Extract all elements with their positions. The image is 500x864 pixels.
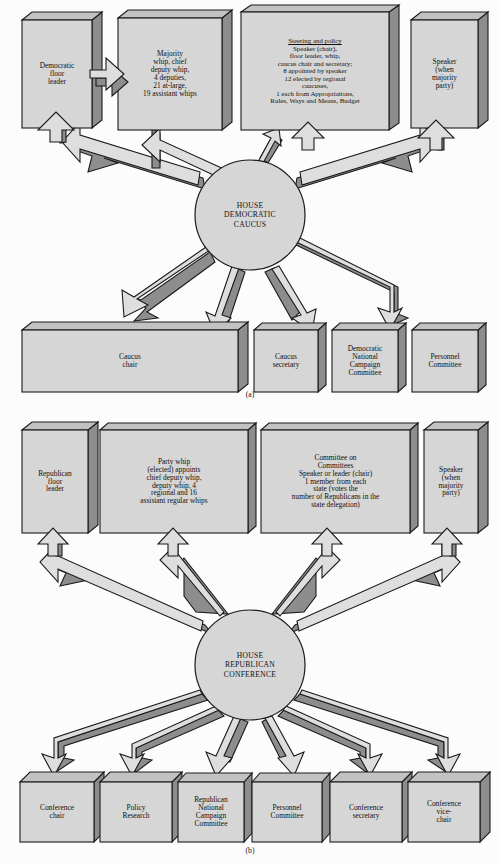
- box-republican-floor-leader: [22, 422, 98, 533]
- arrow-conference-to-rncc: [206, 716, 248, 776]
- box-steering-and-policy: [241, 5, 399, 130]
- box-personnel-committee-a: [412, 323, 486, 392]
- panel-label-a: (a): [235, 390, 265, 399]
- box-speaker-republican: [424, 422, 488, 533]
- box-democratic-national-campaign-committee: [332, 323, 406, 392]
- panel-label-b: (b): [235, 846, 265, 855]
- arrow-caucus-to-dncc: [265, 266, 316, 332]
- box-republican-national-campaign-committee: [178, 773, 252, 842]
- box-policy-research: [100, 772, 182, 842]
- box-committee-on-committees: [261, 423, 418, 533]
- label-house-democratic-caucus: HOUSE DEMOCRATIC CAUCUS: [195, 160, 305, 270]
- figure-canvas: Democratic floor leader Majority whip, c…: [0, 0, 500, 864]
- diagram-artwork: [0, 0, 500, 864]
- box-conference-vice-chair: [408, 772, 490, 842]
- box-majority-whip: [118, 10, 232, 130]
- box-conference-chair: [20, 772, 104, 842]
- box-caucus-secretary: [254, 323, 326, 392]
- box-caucus-chair: [22, 322, 248, 392]
- label-house-republican-conference: HOUSE REPUBLICAN CONFERENCE: [195, 610, 305, 720]
- box-party-whip: [100, 423, 256, 533]
- box-conference-secretary: [330, 772, 412, 842]
- box-speaker-democratic: [411, 12, 488, 128]
- box-personnel-committee-b: [252, 773, 330, 842]
